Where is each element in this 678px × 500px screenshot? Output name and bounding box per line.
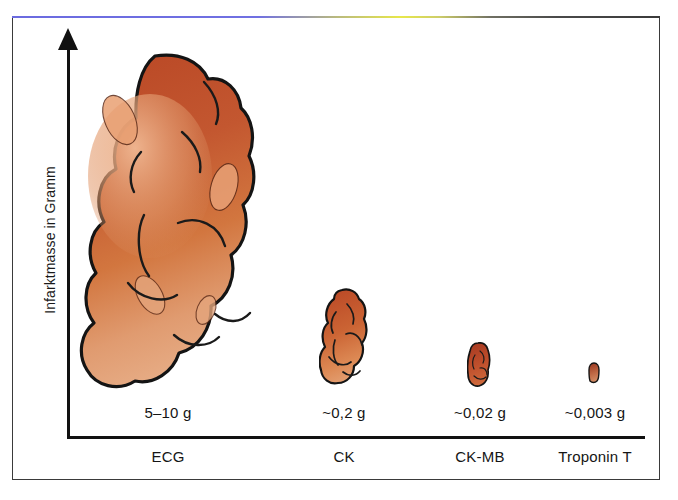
figure-frame bbox=[12, 16, 660, 480]
figure-top-rule bbox=[12, 16, 660, 18]
figure-root: Infarktmasse in Gramm bbox=[0, 0, 678, 500]
